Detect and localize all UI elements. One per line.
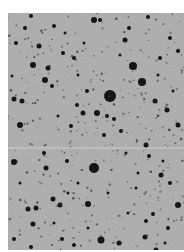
star <box>138 78 146 86</box>
faint-star <box>126 132 128 134</box>
faint-star <box>143 98 145 100</box>
star <box>61 51 65 55</box>
faint-star <box>103 159 105 161</box>
star <box>158 56 162 60</box>
faint-star <box>15 95 17 97</box>
faint-star <box>72 165 73 166</box>
faint-star <box>26 57 27 58</box>
faint-star <box>181 216 183 218</box>
faint-star <box>90 189 92 191</box>
faint-star <box>25 201 27 203</box>
faint-star <box>26 102 27 103</box>
faint-star <box>40 29 42 31</box>
star-field-image <box>8 13 184 250</box>
faint-star <box>176 181 178 183</box>
faint-star <box>130 211 131 212</box>
faint-star <box>34 102 36 104</box>
faint-star <box>160 208 162 210</box>
faint-star <box>50 225 51 226</box>
star <box>176 123 181 128</box>
faint-star <box>84 220 86 222</box>
faint-star <box>156 102 158 104</box>
faint-star <box>57 173 59 175</box>
star <box>69 124 73 128</box>
faint-star <box>76 152 77 153</box>
faint-star <box>75 59 77 61</box>
star <box>31 222 36 227</box>
faint-star <box>176 88 178 90</box>
faint-star <box>107 47 108 48</box>
faint-star <box>86 187 88 189</box>
faint-star <box>81 169 83 171</box>
faint-star <box>72 227 74 229</box>
faint-star <box>48 65 51 68</box>
star <box>102 133 106 137</box>
faint-star <box>110 169 112 171</box>
faint-star <box>111 161 112 162</box>
faint-star <box>67 212 69 214</box>
faint-star <box>96 223 98 225</box>
star <box>98 18 102 22</box>
faint-star <box>67 15 69 17</box>
star <box>29 14 33 18</box>
faint-star <box>172 197 173 198</box>
faint-star <box>99 79 101 81</box>
faint-star <box>62 230 64 232</box>
star <box>146 15 150 19</box>
faint-star <box>115 41 117 43</box>
star <box>112 117 116 121</box>
faint-star <box>133 79 135 81</box>
faint-star <box>139 196 140 197</box>
faint-star <box>90 79 91 80</box>
star <box>143 235 148 240</box>
faint-star <box>130 49 131 50</box>
faint-star <box>80 245 82 247</box>
faint-star <box>146 202 148 204</box>
faint-star <box>90 221 91 222</box>
faint-star <box>174 142 176 144</box>
faint-star <box>145 191 147 193</box>
faint-star <box>31 45 33 47</box>
faint-star <box>141 95 142 96</box>
faint-star <box>165 144 166 145</box>
faint-star <box>181 69 183 71</box>
faint-star <box>150 170 153 173</box>
faint-star <box>77 121 79 123</box>
faint-star <box>29 143 31 145</box>
faint-star <box>157 234 159 236</box>
faint-star <box>168 167 169 168</box>
faint-star <box>87 197 88 198</box>
star <box>123 38 128 43</box>
faint-star <box>133 213 135 215</box>
star <box>77 74 80 77</box>
faint-star <box>163 23 165 25</box>
faint-star <box>36 201 39 204</box>
faint-star <box>136 140 138 142</box>
faint-star <box>49 45 50 46</box>
faint-star <box>93 71 95 73</box>
star <box>98 237 105 244</box>
faint-star <box>88 103 90 105</box>
faint-star <box>112 242 115 245</box>
faint-star <box>93 205 95 207</box>
film-grain <box>8 13 184 250</box>
faint-star <box>145 33 147 35</box>
faint-star <box>33 56 35 58</box>
star <box>135 187 138 190</box>
faint-star <box>168 163 169 164</box>
star <box>87 227 90 230</box>
faint-star <box>63 190 65 192</box>
star <box>29 245 33 249</box>
faint-star <box>89 239 91 241</box>
star <box>65 159 69 163</box>
faint-star <box>173 134 175 136</box>
faint-star <box>15 150 16 151</box>
faint-star <box>172 97 173 98</box>
faint-star <box>162 127 164 129</box>
faint-star <box>43 154 45 156</box>
faint-star <box>123 31 125 33</box>
faint-star <box>39 74 40 75</box>
faint-star <box>10 89 13 92</box>
faint-star <box>158 181 160 183</box>
faint-star <box>137 88 138 89</box>
